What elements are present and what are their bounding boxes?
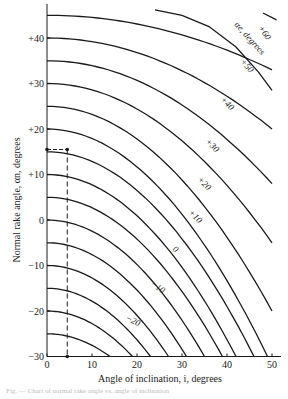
curve-labels: −20−100+10+20+30+40+50+60αe, degrees bbox=[124, 20, 273, 329]
y-tick-label: 0 bbox=[39, 215, 44, 226]
y-axis-label: Normal rake angle, αn, degrees bbox=[11, 137, 22, 262]
x-tick-label: 10 bbox=[87, 359, 97, 370]
curve-label: +20 bbox=[196, 174, 214, 192]
contour-curve bbox=[47, 38, 272, 129]
y-tick-label: +30 bbox=[28, 78, 44, 89]
guide-point bbox=[45, 148, 49, 152]
x-tick-label: 20 bbox=[132, 359, 142, 370]
guide-point bbox=[65, 355, 69, 359]
contour-curve bbox=[47, 243, 187, 357]
dashed-guide bbox=[45, 148, 69, 359]
y-tick-label: −30 bbox=[28, 351, 44, 362]
chart: +40+30+20+100−10−20−3001020304050 −20−10… bbox=[0, 0, 288, 399]
contour-curve bbox=[47, 61, 272, 184]
x-axis-label: Angle of inclination, i, degrees bbox=[98, 373, 222, 384]
y-tick-label: +20 bbox=[28, 124, 44, 135]
contour-curve bbox=[47, 129, 268, 357]
y-tick-label: −10 bbox=[28, 260, 44, 271]
curve-label: 0 bbox=[171, 244, 181, 255]
guide-point bbox=[65, 148, 69, 152]
contour-curve bbox=[47, 84, 272, 243]
contour-curve bbox=[47, 220, 205, 357]
y-tick-label: +40 bbox=[28, 33, 44, 44]
curve-label: +10 bbox=[187, 207, 205, 225]
x-tick-label: 50 bbox=[267, 359, 277, 370]
curve-label: −10 bbox=[149, 278, 167, 295]
contour-curve bbox=[47, 334, 110, 357]
figure-caption: Fig. — Chart of normal rake angle vs. an… bbox=[6, 387, 286, 395]
x-tick-label: 0 bbox=[45, 359, 50, 370]
curve-label: −20 bbox=[124, 313, 142, 329]
y-tick-label: −20 bbox=[28, 306, 44, 317]
y-tick-label: +10 bbox=[28, 169, 44, 180]
curve-label: +50 bbox=[239, 57, 257, 75]
x-tick-label: 40 bbox=[222, 359, 232, 370]
contour-curve bbox=[47, 106, 272, 311]
curve-label: +40 bbox=[219, 94, 237, 112]
contour-curve bbox=[47, 311, 133, 357]
x-tick-label: 30 bbox=[177, 359, 187, 370]
curve-label: +60 bbox=[256, 23, 273, 41]
contour-curve bbox=[47, 152, 254, 357]
curve-label: +30 bbox=[204, 136, 222, 154]
contour-curve bbox=[263, 13, 277, 20]
